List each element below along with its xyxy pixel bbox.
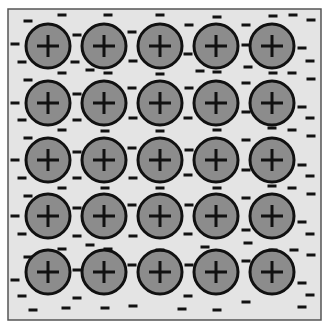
electron-minus-icon bbox=[184, 53, 193, 56]
electron-minus-icon bbox=[101, 130, 110, 133]
positive-ion bbox=[82, 194, 126, 238]
electron-minus-icon bbox=[185, 149, 194, 152]
positive-ion bbox=[26, 194, 70, 238]
electron-minus-icon bbox=[24, 195, 33, 198]
electron-minus-icon bbox=[129, 117, 138, 120]
electron-minus-icon bbox=[156, 130, 165, 133]
electron-minus-icon bbox=[185, 87, 194, 90]
electron-minus-icon bbox=[86, 69, 95, 72]
electron-minus-icon bbox=[73, 151, 82, 154]
electron-minus-icon bbox=[298, 306, 307, 309]
positive-ion bbox=[82, 138, 126, 182]
electron-minus-icon bbox=[298, 47, 307, 50]
electron-minus-icon bbox=[18, 119, 27, 122]
electron-minus-icon bbox=[306, 175, 315, 178]
electron-minus-icon bbox=[307, 78, 316, 81]
electron-minus-icon bbox=[298, 164, 307, 167]
electron-minus-icon bbox=[24, 137, 33, 140]
electron-minus-icon bbox=[11, 279, 20, 282]
electron-minus-icon bbox=[18, 295, 27, 298]
electron-minus-icon bbox=[184, 233, 193, 236]
positive-ion bbox=[250, 194, 294, 238]
positive-ion bbox=[194, 250, 238, 294]
electron-minus-icon bbox=[128, 31, 137, 34]
electron-minus-icon bbox=[307, 193, 316, 196]
electron-minus-icon bbox=[242, 24, 251, 27]
electron-minus-icon bbox=[104, 248, 113, 251]
electron-minus-icon bbox=[306, 60, 315, 63]
electron-minus-icon bbox=[242, 139, 251, 142]
positive-ion bbox=[194, 81, 238, 125]
positive-ion bbox=[250, 138, 294, 182]
positive-ion bbox=[250, 81, 294, 125]
electron-minus-icon bbox=[242, 82, 251, 85]
electron-minus-icon bbox=[73, 93, 82, 96]
electron-minus-icon bbox=[185, 24, 194, 27]
electron-minus-icon bbox=[129, 60, 138, 63]
electron-minus-icon bbox=[86, 244, 95, 247]
electron-minus-icon bbox=[104, 14, 113, 17]
electron-minus-icon bbox=[196, 70, 205, 73]
electron-minus-icon bbox=[213, 129, 222, 132]
electron-minus-icon bbox=[18, 61, 27, 64]
positive-ion bbox=[138, 250, 182, 294]
electron-minus-icon bbox=[244, 66, 253, 69]
electron-minus-icon bbox=[156, 14, 165, 17]
electron-minus-icon bbox=[18, 177, 27, 180]
electron-minus-icon bbox=[213, 16, 222, 19]
electron-minus-icon bbox=[29, 309, 38, 312]
electron-minus-icon bbox=[156, 73, 165, 76]
electron-minus-icon bbox=[242, 197, 251, 200]
positive-ion bbox=[82, 250, 126, 294]
electron-minus-icon bbox=[269, 15, 278, 18]
electron-minus-icon bbox=[73, 177, 82, 180]
electron-minus-icon bbox=[288, 129, 297, 132]
metallic-bonding-diagram: Metallic bonding: positive ions in a sea… bbox=[0, 0, 326, 328]
positive-ion bbox=[26, 24, 70, 68]
electron-minus-icon bbox=[101, 307, 110, 310]
electron-minus-icon bbox=[128, 147, 137, 150]
electron-minus-icon bbox=[62, 307, 71, 310]
electron-minus-icon bbox=[306, 294, 315, 297]
electron-minus-icon bbox=[128, 204, 137, 207]
electron-minus-icon bbox=[306, 117, 315, 120]
electron-minus-icon bbox=[288, 72, 297, 75]
electron-minus-icon bbox=[73, 269, 82, 272]
electron-minus-icon bbox=[213, 309, 222, 312]
electron-minus-icon bbox=[242, 44, 251, 47]
electron-minus-icon bbox=[307, 135, 316, 138]
electron-minus-icon bbox=[11, 43, 20, 46]
electron-minus-icon bbox=[24, 256, 33, 259]
electron-minus-icon bbox=[242, 260, 251, 263]
electron-minus-icon bbox=[184, 117, 193, 120]
electron-minus-icon bbox=[298, 221, 307, 224]
electron-minus-icon bbox=[58, 72, 67, 75]
electron-minus-icon bbox=[11, 102, 20, 105]
electron-minus-icon bbox=[289, 14, 298, 17]
electron-minus-icon bbox=[156, 249, 165, 252]
electron-minus-icon bbox=[129, 177, 138, 180]
electron-minus-icon bbox=[306, 233, 315, 236]
positive-ion bbox=[250, 250, 294, 294]
electron-minus-icon bbox=[18, 233, 27, 236]
electron-minus-icon bbox=[128, 87, 137, 90]
electron-minus-icon bbox=[184, 174, 193, 177]
positive-ion bbox=[138, 138, 182, 182]
electron-minus-icon bbox=[307, 254, 316, 257]
electron-minus-icon bbox=[58, 14, 67, 17]
electron-minus-icon bbox=[11, 215, 20, 218]
electron-minus-icon bbox=[185, 204, 194, 207]
positive-ion bbox=[26, 250, 70, 294]
electron-minus-icon bbox=[244, 242, 253, 245]
electron-minus-icon bbox=[185, 264, 194, 267]
electron-minus-icon bbox=[242, 169, 251, 172]
electron-minus-icon bbox=[58, 187, 67, 190]
electron-minus-icon bbox=[58, 129, 67, 132]
electron-minus-icon bbox=[242, 111, 251, 114]
positive-ion bbox=[194, 138, 238, 182]
electron-minus-icon bbox=[268, 127, 277, 130]
positive-ion bbox=[82, 24, 126, 68]
electron-minus-icon bbox=[104, 72, 113, 75]
electron-minus-icon bbox=[269, 72, 278, 75]
positive-ion bbox=[138, 81, 182, 125]
